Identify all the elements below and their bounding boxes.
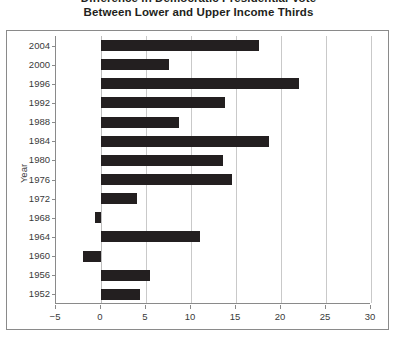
bar-1952[interactable]	[101, 289, 140, 300]
x-tick-label--5: −5	[50, 312, 61, 322]
bar-row	[56, 189, 370, 208]
y-tick-label-2000: 2000	[6, 60, 50, 70]
y-tick-label-1992: 1992	[6, 98, 50, 108]
bar-2000[interactable]	[101, 59, 169, 70]
bar-1960[interactable]	[83, 251, 101, 262]
bar-1992[interactable]	[101, 97, 225, 108]
bar-1956[interactable]	[101, 270, 150, 281]
y-tick-mark	[52, 180, 55, 181]
bar-1984[interactable]	[101, 136, 269, 147]
x-tick-mark	[55, 305, 56, 309]
bar-row	[56, 132, 370, 151]
y-tick-label-1976: 1976	[6, 175, 50, 185]
x-tick-label-5: 5	[142, 312, 147, 322]
x-tick-label-0: 0	[97, 312, 102, 322]
y-tick-label-1980: 1980	[6, 155, 50, 165]
y-tick-label-1952: 1952	[6, 289, 50, 299]
bar-row	[56, 285, 370, 304]
x-tick-mark	[280, 305, 281, 309]
bar-2004[interactable]	[101, 40, 259, 51]
x-tick-label-15: 15	[230, 312, 241, 322]
x-tick-mark	[325, 305, 326, 309]
y-tick-mark	[52, 122, 55, 123]
y-tick-label-1960: 1960	[6, 251, 50, 261]
y-tick-mark	[52, 65, 55, 66]
bar-row	[56, 227, 370, 246]
y-tick-mark	[52, 256, 55, 257]
bar-1980[interactable]	[101, 155, 223, 166]
bar-row	[56, 36, 370, 55]
y-tick-mark	[52, 218, 55, 219]
x-tick-mark	[100, 305, 101, 309]
y-tick-mark	[52, 46, 55, 47]
bar-1972[interactable]	[101, 193, 137, 204]
y-tick-mark	[52, 237, 55, 238]
chart-title: Difference in Democratic Presidential Vo…	[0, 0, 397, 19]
chart-title-line-2: Between Lower and Upper Income Thirds	[0, 6, 397, 20]
bar-1968[interactable]	[95, 212, 101, 223]
bar-row	[56, 93, 370, 112]
y-tick-mark	[52, 199, 55, 200]
bar-row	[56, 55, 370, 74]
x-tick-mark	[370, 305, 371, 309]
x-tick-mark	[145, 305, 146, 309]
y-tick-mark	[52, 275, 55, 276]
y-tick-label-1984: 1984	[6, 136, 50, 146]
bar-row	[56, 151, 370, 170]
bar-1996[interactable]	[101, 78, 299, 89]
chart-figure: Difference in Democratic Presidential Vo…	[0, 0, 397, 339]
bar-1964[interactable]	[101, 231, 200, 242]
y-tick-label-1988: 1988	[6, 117, 50, 127]
x-tick-mark	[190, 305, 191, 309]
y-tick-label-1996: 1996	[6, 79, 50, 89]
y-tick-label-1956: 1956	[6, 270, 50, 280]
y-tick-mark	[52, 141, 55, 142]
bar-1988[interactable]	[101, 117, 179, 128]
bar-1976[interactable]	[101, 174, 232, 185]
x-tick-label-20: 20	[275, 312, 286, 322]
gridline-x-30	[371, 36, 372, 303]
bar-row	[56, 74, 370, 93]
plot-area	[55, 36, 370, 304]
y-tick-mark	[52, 294, 55, 295]
x-tick-label-30: 30	[365, 312, 376, 322]
bar-row	[56, 266, 370, 285]
bar-row	[56, 113, 370, 132]
y-tick-label-1972: 1972	[6, 194, 50, 204]
y-tick-mark	[52, 103, 55, 104]
y-tick-label-2004: 2004	[6, 41, 50, 51]
y-tick-label-1968: 1968	[6, 213, 50, 223]
y-tick-mark	[52, 84, 55, 85]
x-tick-label-25: 25	[320, 312, 331, 322]
x-tick-mark	[235, 305, 236, 309]
y-tick-label-1964: 1964	[6, 232, 50, 242]
bar-row	[56, 170, 370, 189]
bar-row	[56, 247, 370, 266]
y-tick-mark	[52, 160, 55, 161]
x-tick-label-10: 10	[185, 312, 196, 322]
bar-row	[56, 208, 370, 227]
